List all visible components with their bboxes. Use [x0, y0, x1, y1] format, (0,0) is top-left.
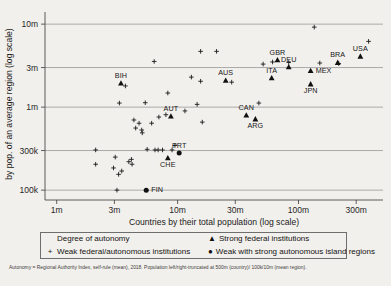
- data-point: [117, 101, 122, 106]
- data-point: [140, 131, 145, 136]
- data-point: [93, 148, 98, 153]
- legend-label-weak-island: Weak with strong autonomous island regio…: [216, 248, 375, 256]
- y-tick-label: 300k: [20, 146, 39, 156]
- data-point: [149, 121, 154, 126]
- data-point: [257, 101, 262, 106]
- x-axis-title: Countries by their total population (log…: [129, 217, 299, 227]
- legend-label-strong-federal: Strong federal institutions: [219, 235, 309, 243]
- data-point: [183, 109, 188, 114]
- chart-footnote: Autonomy = Regional Authority Index, sel…: [9, 265, 387, 271]
- data-point: [145, 147, 150, 152]
- point-label: USA: [353, 44, 368, 53]
- x-tick-label: 10m: [169, 205, 186, 215]
- plus-icon: +: [46, 248, 54, 256]
- data-point: [198, 79, 203, 84]
- data-point: [144, 188, 149, 193]
- y-axis-title: by pop. of an average region (log scale): [4, 28, 14, 180]
- data-point: [113, 155, 118, 160]
- x-tick-label: 300m: [346, 205, 367, 215]
- legend-entry-weak-island: ● Weak with strong autonomous island reg…: [203, 248, 348, 256]
- data-point: [129, 157, 134, 162]
- circle-icon: ●: [208, 248, 213, 256]
- data-point: [195, 102, 200, 107]
- point-label: BIH: [115, 71, 127, 80]
- data-point: [133, 126, 138, 131]
- point-label: CHE: [160, 160, 176, 169]
- data-point: [130, 162, 135, 167]
- point-label: JPN: [304, 86, 318, 95]
- x-tick-label: 100m: [288, 205, 309, 215]
- y-tick-label: 100k: [20, 185, 39, 195]
- point-label: AUT: [164, 104, 179, 113]
- point-label: ITA: [266, 66, 277, 75]
- data-point: [286, 64, 292, 69]
- y-tick-label: 10m: [21, 19, 38, 29]
- data-point: [198, 49, 203, 54]
- x-tick-label: 3m: [108, 205, 120, 215]
- data-point: [93, 162, 98, 167]
- legend-entry-weak-federal: + Weak federal/autonomous institutions: [41, 248, 203, 256]
- data-point: [166, 91, 171, 96]
- data-point: [200, 120, 205, 125]
- data-point: [156, 148, 161, 153]
- x-tick-label: 1m: [51, 205, 63, 215]
- data-point: [223, 77, 229, 82]
- data-point: [270, 60, 275, 65]
- data-point: [243, 112, 249, 117]
- point-label: FIN: [151, 185, 163, 194]
- y-tick-label: 1m: [26, 102, 38, 112]
- data-point: [168, 113, 174, 118]
- data-point: [275, 57, 281, 62]
- data-point: [115, 188, 120, 193]
- data-point: [164, 112, 169, 117]
- data-point: [157, 115, 162, 120]
- data-point: [214, 49, 219, 54]
- data-point: [189, 75, 194, 80]
- data-point: [143, 100, 148, 105]
- data-point: [111, 166, 116, 171]
- data-point: [269, 75, 275, 80]
- data-point: [177, 151, 182, 156]
- point-label: PRT: [172, 141, 187, 150]
- data-point: [335, 60, 341, 65]
- y-tick-label: 3m: [26, 63, 38, 73]
- legend-entry-strong-federal: ▲ Strong federal institutions: [203, 235, 348, 243]
- point-label: DEU: [281, 55, 296, 64]
- data-point: [123, 84, 128, 89]
- legend-title: Degree of autonomy: [57, 235, 130, 243]
- data-point: [317, 61, 322, 66]
- data-point: [118, 80, 124, 85]
- data-point: [261, 62, 266, 67]
- x-tick-label: 30m: [227, 205, 244, 215]
- data-point: [116, 172, 121, 177]
- point-label: MEX: [316, 66, 332, 75]
- data-point: [119, 169, 124, 174]
- point-label: BRA: [330, 50, 345, 59]
- triangle-icon: ▲: [208, 235, 216, 243]
- data-point: [132, 118, 137, 123]
- data-point: [308, 68, 314, 73]
- data-point: [312, 25, 317, 30]
- data-point: [366, 39, 371, 44]
- point-label: ARG: [247, 121, 263, 130]
- data-point: [152, 59, 157, 64]
- point-label: CAN: [239, 103, 254, 112]
- data-point: [357, 53, 363, 58]
- legend-title-cell: Degree of autonomy: [41, 235, 203, 243]
- data-point: [229, 80, 234, 85]
- point-label: AUS: [218, 68, 233, 77]
- data-point: [139, 128, 144, 133]
- data-point: [127, 159, 132, 164]
- data-point: [137, 121, 142, 126]
- legend-label-weak-federal: Weak federal/autonomous institutions: [57, 248, 190, 256]
- data-point: [160, 148, 165, 153]
- chart-legend: Degree of autonomy ▲ Strong federal inst…: [40, 232, 347, 259]
